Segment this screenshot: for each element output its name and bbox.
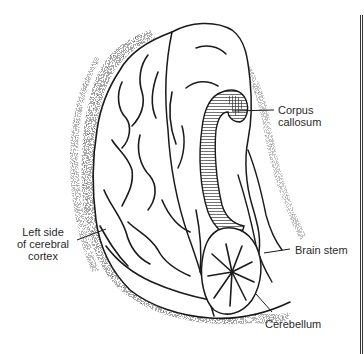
- label-corpus-callosum: Corpus callosum: [278, 104, 321, 128]
- cerebellum: [202, 228, 261, 314]
- label-cortex-line1: Left side: [12, 226, 74, 238]
- label-brain-stem-line1: Brain stem: [295, 244, 348, 256]
- label-cortex-line2: of cerebral: [12, 238, 74, 250]
- leader-brain-stem: [264, 249, 290, 253]
- label-cerebellum: Cerebellum: [265, 318, 321, 330]
- label-cerebral-cortex: Left side of cerebral cortex: [12, 226, 74, 262]
- label-brain-stem: Brain stem: [295, 244, 348, 256]
- label-cerebellum-line1: Cerebellum: [265, 318, 321, 330]
- brain-drawing: [0, 0, 364, 354]
- frame-border-inner: [360, 15, 361, 354]
- label-corpus-callosum-line2: callosum: [278, 116, 321, 128]
- brain-illustration: Corpus callosum Left side of cerebral co…: [0, 0, 364, 354]
- label-cortex-line3: cortex: [12, 250, 74, 262]
- frame-border-outer: [362, 15, 363, 354]
- label-corpus-callosum-line1: Corpus: [278, 104, 321, 116]
